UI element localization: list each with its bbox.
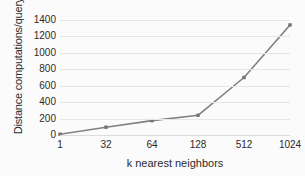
gridline	[60, 69, 290, 70]
x-axis-tick-labels: 132641285121024	[60, 139, 290, 153]
y-axis-tick-label: 200	[16, 114, 56, 124]
gridline	[60, 36, 290, 37]
gridline	[60, 135, 290, 136]
data-point-marker	[242, 76, 245, 79]
y-axis-tick-label: 1400	[16, 15, 56, 25]
y-axis-tick-labels: 0200400600800100012001400	[12, 20, 56, 135]
y-axis-tick-label: 600	[16, 81, 56, 91]
x-axis-tick-label: 64	[130, 139, 174, 151]
gridline	[60, 86, 290, 87]
x-axis-tick-label: 32	[84, 139, 128, 151]
x-axis-title: k nearest neighbors	[60, 157, 290, 169]
y-axis-tick-label: 1200	[16, 31, 56, 41]
gridline	[60, 102, 290, 103]
data-point-marker	[104, 126, 107, 129]
data-point-marker	[196, 114, 199, 117]
x-axis-tick-label: 128	[176, 139, 220, 151]
y-axis-tick-label: 800	[16, 64, 56, 74]
gridline	[60, 119, 290, 120]
plot-area	[60, 20, 290, 135]
y-axis-tick-label: 1000	[16, 48, 56, 58]
x-axis-tick-label: 512	[222, 139, 266, 151]
data-point-marker	[288, 23, 291, 26]
x-axis-tick-label: 1	[38, 139, 82, 151]
y-axis-tick-label: 400	[16, 97, 56, 107]
chart-container: Distance computations/query 020040060080…	[0, 0, 305, 176]
gridline	[60, 53, 290, 54]
gridline	[60, 20, 290, 21]
x-axis-tick-label: 1024	[268, 139, 305, 151]
